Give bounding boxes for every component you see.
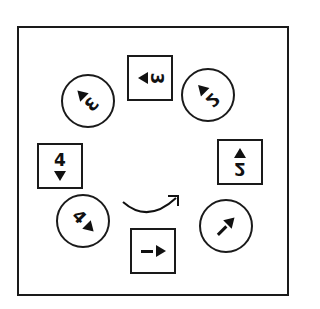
card-left-square: 4 — [37, 143, 83, 189]
triangle-down-icon — [54, 171, 66, 181]
card-symbol-stroke — [141, 250, 153, 253]
triangle-left-icon — [138, 72, 148, 84]
triangle-icon — [82, 220, 98, 236]
card-symbol: 3 — [82, 95, 102, 115]
triangle-up-icon — [234, 148, 246, 158]
card-top-square: 3 — [127, 55, 173, 101]
card-symbol-stroke — [216, 225, 227, 236]
card-top-left-circle: 3 — [61, 74, 115, 128]
card-symbol: 4 — [54, 152, 66, 169]
card-symbol: 2 — [202, 89, 222, 109]
card-bottom-right-circle: 1 — [199, 199, 253, 253]
card-bottom-square: 1 — [130, 228, 176, 274]
card-right-square: 2 — [217, 139, 263, 185]
curved-arrow-icon — [118, 190, 184, 220]
triangle-right-icon — [156, 245, 166, 257]
card-symbol: 3 — [148, 72, 165, 84]
card-bottom-left-circle: 4 — [56, 194, 110, 248]
card-top-right-circle: 2 — [181, 68, 235, 122]
card-symbol: 2 — [234, 160, 246, 177]
